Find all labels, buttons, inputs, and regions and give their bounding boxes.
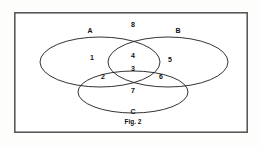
venn-diagram-canvas: A B C 8 1 4 5 3 2 6 7 Fig. 2 <box>0 0 260 147</box>
venn-figure: A B C 8 1 4 5 3 2 6 7 Fig. 2 <box>0 0 260 147</box>
set-label-c: C <box>130 108 135 115</box>
region-label-4: 4 <box>131 52 135 59</box>
region-label-7: 7 <box>131 87 135 94</box>
figure-caption: Fig. 2 <box>125 118 142 126</box>
region-label-5: 5 <box>168 56 172 63</box>
region-label-2: 2 <box>101 73 105 80</box>
region-label-6: 6 <box>159 73 163 80</box>
region-label-1: 1 <box>90 54 94 61</box>
region-label-8: 8 <box>131 21 135 28</box>
set-label-a: A <box>87 27 92 34</box>
set-label-b: B <box>175 27 180 34</box>
region-label-3: 3 <box>131 65 135 72</box>
